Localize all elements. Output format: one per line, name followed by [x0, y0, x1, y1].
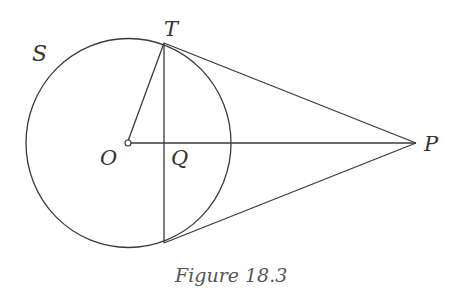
radius-ot [128, 43, 164, 141]
label-s: S [32, 41, 47, 66]
label-t: T [164, 17, 180, 41]
tangent-line-lower [164, 143, 416, 243]
label-o: O [100, 146, 117, 170]
figure-caption: Figure 18.3 [174, 264, 287, 286]
tangent-line-upper [164, 43, 416, 143]
label-p: P [423, 132, 439, 156]
label-q: Q [171, 146, 188, 170]
center-point-o [125, 140, 131, 146]
geometry-figure: S T O Q P Figure 18.3 [0, 0, 462, 294]
